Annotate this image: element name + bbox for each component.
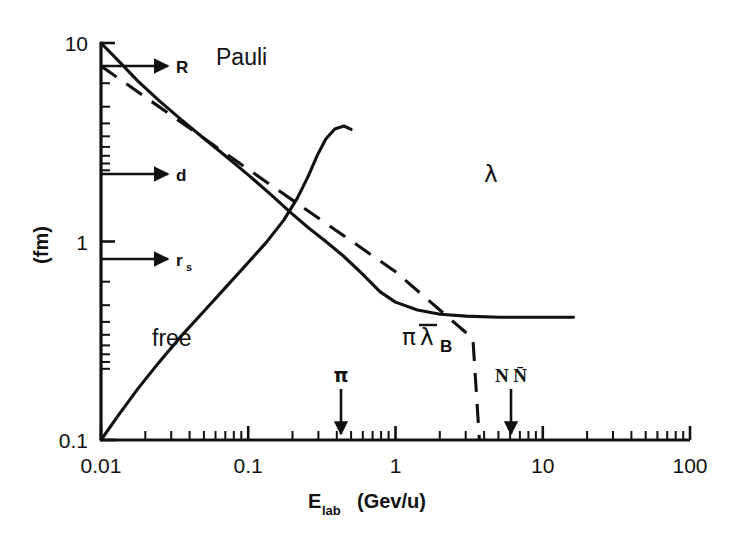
y-tick-label-0.1: 0.1 bbox=[59, 429, 88, 452]
curve-pauli bbox=[101, 43, 574, 317]
chart-svg: 10 1 0.1 0.01 0.1 1 10 100 (fm) E lab (G… bbox=[0, 0, 732, 537]
x-marker-nucleon-antinucleon: N N̄ bbox=[495, 365, 527, 434]
y-tick-label-10: 10 bbox=[65, 32, 88, 55]
y-marker-R-label: R bbox=[176, 58, 188, 77]
y-tick-label-1: 1 bbox=[76, 231, 88, 254]
x-axis-title-main: E bbox=[308, 490, 321, 512]
curve-label-lambda: λ bbox=[484, 161, 498, 187]
y-marker-d-label: d bbox=[176, 166, 186, 185]
y-axis-ticks bbox=[101, 43, 115, 440]
y-marker-r-sublabel: s bbox=[186, 261, 192, 273]
x-tick-label-10: 10 bbox=[531, 454, 554, 477]
y-marker-d: d bbox=[101, 166, 186, 185]
x-tick-label-1: 1 bbox=[390, 454, 402, 477]
curve-label-lambda-bar: λ bbox=[420, 324, 434, 350]
x-marker-pion: π bbox=[333, 364, 348, 434]
curve-label-pi: π bbox=[402, 324, 416, 350]
curve-label-pauli: Pauli bbox=[216, 44, 267, 70]
x-tick-label-100: 100 bbox=[672, 454, 707, 477]
x-axis-title: E lab (Gev/u) bbox=[308, 490, 426, 518]
x-tick-label-0.1: 0.1 bbox=[234, 454, 263, 477]
x-marker-pion-label: π bbox=[333, 364, 348, 386]
curve-label-free: free bbox=[152, 325, 192, 351]
y-axis-title: (fm) bbox=[30, 226, 52, 264]
y-marker-r-label: r bbox=[176, 251, 183, 270]
plot-axes bbox=[101, 43, 690, 440]
x-tick-label-0.01: 0.01 bbox=[81, 454, 122, 477]
curve-pi-lambda-b bbox=[101, 66, 479, 440]
curve-label-sub-b: B bbox=[440, 337, 452, 356]
curve-label-pi-lambda-b: π λ B bbox=[402, 324, 452, 356]
x-axis-title-sub: lab bbox=[322, 503, 341, 518]
x-axis-title-unit: (Gev/u) bbox=[357, 490, 426, 512]
figure-log-log-plot: 10 1 0.1 0.01 0.1 1 10 100 (fm) E lab (G… bbox=[0, 0, 732, 537]
y-marker-r-s: r s bbox=[101, 251, 192, 273]
x-axis-ticks bbox=[101, 426, 690, 440]
x-marker-nucleon-antinucleon-label: N N̄ bbox=[495, 365, 527, 386]
